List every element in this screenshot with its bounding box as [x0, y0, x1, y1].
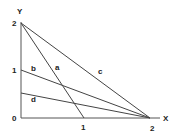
y-tick-0: 0: [12, 114, 17, 123]
y-tick-2: 2: [12, 19, 17, 28]
line-c-label: c: [98, 67, 103, 76]
y-tick-1: 1: [12, 66, 17, 75]
x-tick-2: 2: [150, 124, 155, 133]
line-c: [21, 23, 150, 118]
line-diagram: Y X 2 1 0 1 2 a b c d: [0, 0, 174, 140]
line-a-label: a: [55, 63, 60, 72]
line-d: [21, 93, 150, 118]
y-axis-label: Y: [17, 7, 23, 16]
x-axis-label: X: [163, 114, 169, 123]
x-tick-1: 1: [81, 123, 86, 132]
line-b-label: b: [31, 64, 36, 73]
line-d-label: d: [31, 95, 36, 104]
line-b: [21, 70, 150, 118]
